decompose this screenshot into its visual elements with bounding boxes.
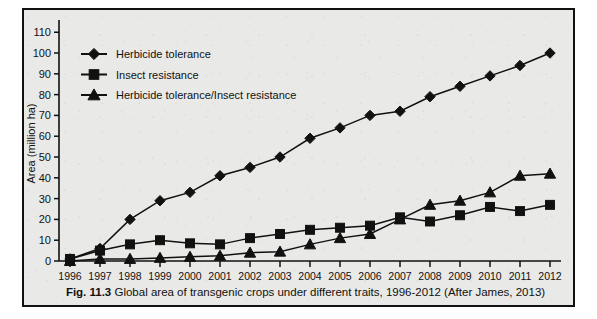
- marker-square: [186, 239, 195, 248]
- marker-square: [486, 202, 495, 211]
- marker-square: [336, 223, 345, 232]
- x-tick-label: 2003: [268, 270, 292, 282]
- x-tick-label: 1998: [118, 270, 142, 282]
- marker-square: [156, 236, 165, 245]
- marker-square: [126, 240, 135, 249]
- marker-diamond: [425, 92, 435, 102]
- marker-diamond: [395, 106, 405, 116]
- marker-diamond: [245, 162, 255, 172]
- figure-caption: Fig. 11.3 Global area of transgenic crop…: [48, 286, 563, 298]
- caption-text: Global area of transgenic crops under di…: [114, 286, 545, 298]
- x-tick-label: 2001: [208, 270, 232, 282]
- y-tick-label: 0: [45, 255, 51, 267]
- marker-diamond: [455, 81, 465, 91]
- marker-diamond: [545, 48, 555, 58]
- marker-diamond: [185, 187, 195, 197]
- x-tick-label: 2005: [328, 270, 352, 282]
- marker-square: [89, 70, 99, 80]
- legend-label: Herbicide tolerance: [116, 48, 211, 60]
- x-tick-label: 1996: [58, 270, 82, 282]
- marker-square: [246, 234, 255, 243]
- y-tick-label: 80: [39, 89, 51, 101]
- x-tick-label: 2012: [538, 270, 562, 282]
- legend-label: Herbicide tolerance/Insect resistance: [116, 89, 296, 101]
- y-tick-label: 110: [33, 26, 51, 38]
- x-tick-label: 1999: [148, 270, 172, 282]
- caption-label: Fig. 11.3: [66, 286, 111, 298]
- marker-square: [426, 217, 435, 226]
- marker-diamond: [305, 133, 315, 143]
- marker-diamond: [485, 71, 495, 81]
- x-tick-label: 2009: [448, 270, 472, 282]
- marker-square: [516, 207, 525, 216]
- x-tick-label: 2002: [238, 270, 262, 282]
- top-cut-text-strip: · · ·: [0, 0, 597, 7]
- x-tick-label: 2000: [178, 270, 202, 282]
- y-axis-title: Area (million ha): [25, 103, 37, 183]
- legend-label: Insect resistance: [116, 69, 199, 81]
- line-chart: 0102030405060708090100110Area (million h…: [24, 10, 573, 305]
- x-tick-label: 2006: [358, 270, 382, 282]
- x-tick-label: 2010: [478, 270, 502, 282]
- y-tick-label: 60: [39, 130, 51, 142]
- marker-diamond: [335, 123, 345, 133]
- y-tick-label: 40: [39, 172, 51, 184]
- x-tick-label: 2011: [509, 270, 532, 282]
- marker-diamond: [275, 152, 285, 162]
- marker-square: [276, 229, 285, 238]
- y-tick-label: 100: [33, 47, 51, 59]
- marker-square: [306, 225, 315, 234]
- y-tick-label: 90: [39, 68, 51, 80]
- marker-diamond: [88, 48, 99, 59]
- marker-triangle: [544, 168, 555, 178]
- marker-diamond: [365, 110, 375, 120]
- marker-square: [216, 240, 225, 249]
- marker-diamond: [155, 195, 165, 205]
- y-tick-label: 50: [39, 151, 51, 163]
- x-tick-label: 2008: [418, 270, 442, 282]
- marker-square: [456, 211, 465, 220]
- figure-root: · · · 0102030405060708090100110Area (mil…: [0, 0, 597, 319]
- marker-triangle: [484, 187, 495, 197]
- y-tick-label: 70: [39, 109, 51, 121]
- marker-diamond: [215, 171, 225, 181]
- y-tick-label: 30: [39, 193, 51, 205]
- figure-box: 0102030405060708090100110Area (million h…: [22, 8, 575, 307]
- top-cut-text: · · ·: [150, 0, 277, 5]
- y-tick-label: 10: [39, 234, 51, 246]
- x-tick-label: 2004: [298, 270, 322, 282]
- y-tick-label: 20: [39, 213, 51, 225]
- x-tick-label: 2007: [388, 270, 412, 282]
- marker-diamond: [515, 60, 525, 70]
- x-tick-label: 1997: [88, 270, 112, 282]
- marker-square: [546, 200, 555, 209]
